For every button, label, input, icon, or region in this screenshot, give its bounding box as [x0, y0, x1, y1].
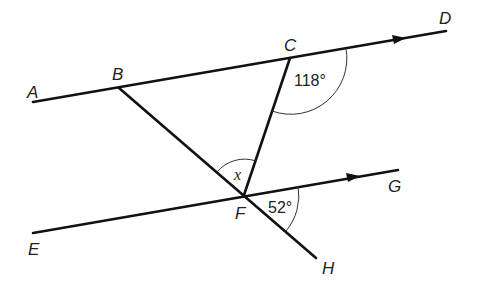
angle-label-118: 118°	[294, 72, 326, 89]
line-ad	[33, 31, 446, 102]
angle-label-52: 52°	[268, 199, 292, 216]
line-bh	[119, 88, 316, 258]
label-e: E	[28, 240, 40, 259]
label-c: C	[284, 36, 297, 55]
label-a: A	[26, 83, 38, 102]
label-g: G	[388, 177, 401, 196]
label-h: H	[322, 259, 335, 278]
label-b: B	[112, 65, 123, 84]
angle-label-x: x	[233, 166, 241, 183]
label-f: F	[235, 204, 247, 223]
geometry-diagram: A B C D E F G H 118° 52° x	[0, 0, 478, 287]
line-cf	[244, 58, 290, 195]
line-eg	[33, 170, 398, 233]
label-d: D	[439, 9, 451, 28]
